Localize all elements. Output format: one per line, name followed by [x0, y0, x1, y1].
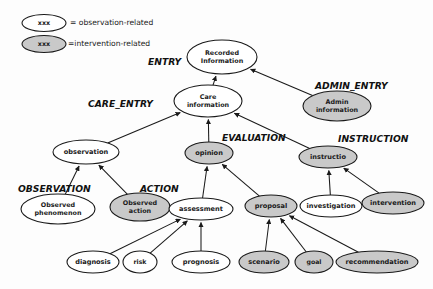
edge-risk-to-assessment — [150, 221, 187, 253]
node-label-admin_information: information — [316, 106, 359, 114]
group-label-observation: OBSERVATION — [18, 183, 91, 194]
node-label-proposal: proposal — [255, 202, 287, 210]
node-label-recommendation: recommendation — [346, 258, 409, 266]
group-label-instruction: INSTRUCTION — [338, 133, 409, 144]
group-label-entry: ENTRY — [148, 56, 182, 67]
node-assessment[interactable]: assessment — [169, 198, 233, 220]
node-goal[interactable]: goal — [295, 251, 333, 273]
node-recorded_information[interactable]: RecordedInformation — [187, 40, 257, 74]
node-observed_action[interactable]: Observedaction — [110, 193, 170, 221]
node-label-recorded_information: Information — [201, 57, 244, 65]
nodes-layer: RecordedInformationCareinformationAdmini… — [21, 40, 424, 273]
node-admin_information[interactable]: Admininformation — [303, 91, 371, 121]
node-observation[interactable]: observation — [53, 140, 119, 164]
edge-scenario-to-proposal — [265, 219, 269, 251]
node-label-observed_action: action — [129, 207, 152, 215]
node-observed_phenomenon[interactable]: Observedphenomenon — [21, 194, 95, 224]
edge-observed_action-to-observation — [99, 165, 128, 194]
node-risk[interactable]: risk — [123, 251, 157, 273]
legend-label-observation: = observation-related — [70, 18, 153, 27]
node-label-observation: observation — [64, 148, 109, 156]
edge-observation-to-care_information — [108, 113, 181, 143]
node-label-intervention: intervention — [370, 199, 416, 207]
group-label-care_entry: CARE_ENTRY — [88, 98, 154, 109]
legend-layer: xxx= observation-relatedxxx=intervention… — [22, 15, 153, 53]
node-label-instructio: instructio — [310, 153, 346, 161]
node-opinion[interactable]: opinion — [185, 142, 233, 164]
legend-item-intervention: xxx=intervention-related — [22, 36, 150, 53]
edge-proposal-to-opinion — [222, 164, 259, 196]
edge-investigation-to-instructio — [329, 170, 331, 195]
legend-item-observation: xxx= observation-related — [22, 15, 153, 32]
node-label-goal: goal — [307, 258, 322, 266]
group-label-evaluation: EVALUATION — [222, 132, 286, 143]
edge-care_information-to-recorded_information — [213, 76, 216, 85]
node-label-prognosis: prognosis — [183, 258, 220, 266]
node-recommendation[interactable]: recommendation — [336, 251, 418, 273]
legend-swatch-text-observation: xxx — [38, 19, 51, 27]
node-label-care_information: information — [187, 101, 230, 109]
node-diagnosis[interactable]: diagnosis — [67, 251, 119, 273]
group-label-admin_entry: ADMIN_ENTRY — [314, 80, 389, 91]
edge-recommendation-to-proposal — [289, 216, 358, 252]
class-hierarchy-diagram: RecordedInformationCareinformationAdmini… — [0, 0, 433, 289]
node-prognosis[interactable]: prognosis — [172, 251, 230, 273]
legend-label-intervention: =intervention-related — [68, 39, 150, 48]
node-intervention[interactable]: intervention — [362, 192, 424, 214]
node-care_information[interactable]: Careinformation — [174, 85, 242, 117]
node-investigation[interactable]: investigation — [300, 195, 362, 217]
node-proposal[interactable]: proposal — [245, 195, 297, 217]
node-label-investigation: investigation — [307, 202, 356, 210]
group-label-action: ACTION — [139, 183, 179, 194]
node-label-assessment: assessment — [179, 205, 223, 213]
edge-intervention-to-instructio — [344, 168, 379, 193]
node-label-opinion: opinion — [195, 149, 223, 157]
diagram-canvas: RecordedInformationCareinformationAdmini… — [0, 0, 433, 289]
node-label-diagnosis: diagnosis — [75, 258, 111, 266]
node-scenario[interactable]: scenario — [239, 251, 289, 273]
node-label-risk: risk — [134, 258, 148, 265]
legend-swatch-text-intervention: xxx — [38, 40, 51, 48]
node-label-scenario: scenario — [248, 258, 280, 266]
node-instructio[interactable]: instructio — [299, 146, 357, 168]
node-label-observed_phenomenon: phenomenon — [35, 209, 82, 217]
edge-assessment-to-opinion — [203, 166, 208, 198]
edge-admin_information-to-recorded_information — [251, 69, 313, 95]
edge-goal-to-proposal — [281, 218, 307, 252]
